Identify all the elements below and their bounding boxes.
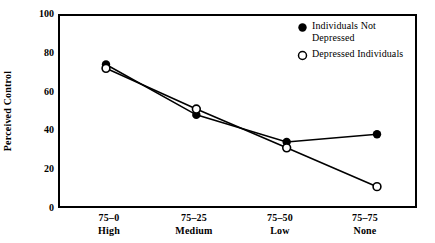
legend-item-depressed: Depressed Individuals bbox=[296, 48, 420, 61]
x-tick-75-25: 75–25 Medium bbox=[149, 212, 239, 237]
x-tick-75-50-line1: 75–50 bbox=[235, 212, 325, 225]
chart-legend: Individuals Not Depressed Depressed Indi… bbox=[296, 20, 420, 66]
x-tick-75-50-line2: Low bbox=[235, 225, 325, 238]
data-point-open-circle bbox=[192, 105, 200, 113]
legend-label-not-depressed-line2: Depressed bbox=[312, 32, 355, 43]
y-tick-0: 0 bbox=[18, 203, 54, 213]
x-tick-75-25-line2: Medium bbox=[149, 225, 239, 238]
x-axis-tick-labels: 75–0 High 75–25 Medium 75–50 Low 75–75 N… bbox=[58, 212, 417, 243]
x-tick-75-50: 75–50 Low bbox=[235, 212, 325, 237]
data-point-filled-circle bbox=[373, 130, 381, 138]
x-tick-75-0: 75–0 High bbox=[64, 212, 154, 237]
y-axis-tick-labels: 100 80 60 40 20 0 bbox=[14, 0, 54, 243]
y-tick-80: 80 bbox=[18, 48, 54, 58]
legend-label-depressed-line1: Depressed Individuals bbox=[312, 48, 403, 59]
series-line-1 bbox=[106, 68, 377, 186]
y-tick-40: 40 bbox=[18, 125, 54, 135]
chart-figure: Perceived Control 100 80 60 40 20 0 75–0… bbox=[0, 0, 435, 243]
series-line-0 bbox=[106, 64, 377, 142]
x-tick-75-75: 75–75 None bbox=[320, 212, 410, 237]
filled-circle-icon bbox=[296, 21, 309, 34]
legend-label-not-depressed: Individuals Not Depressed bbox=[312, 20, 376, 43]
legend-item-not-depressed: Individuals Not Depressed bbox=[296, 20, 420, 43]
y-tick-100: 100 bbox=[18, 9, 54, 19]
data-point-open-circle bbox=[283, 144, 291, 152]
y-tick-20: 20 bbox=[18, 164, 54, 174]
x-tick-75-75-line1: 75–75 bbox=[320, 212, 410, 225]
open-circle-icon bbox=[296, 49, 309, 62]
x-tick-75-0-line1: 75–0 bbox=[64, 212, 154, 225]
x-tick-75-0-line2: High bbox=[64, 225, 154, 238]
y-tick-60: 60 bbox=[18, 87, 54, 97]
legend-label-depressed: Depressed Individuals bbox=[312, 48, 403, 60]
legend-label-not-depressed-line1: Individuals Not bbox=[312, 20, 376, 31]
x-tick-75-25-line1: 75–25 bbox=[149, 212, 239, 225]
data-point-open-circle bbox=[373, 183, 381, 191]
x-tick-75-75-line2: None bbox=[320, 225, 410, 238]
data-point-open-circle bbox=[102, 64, 110, 72]
